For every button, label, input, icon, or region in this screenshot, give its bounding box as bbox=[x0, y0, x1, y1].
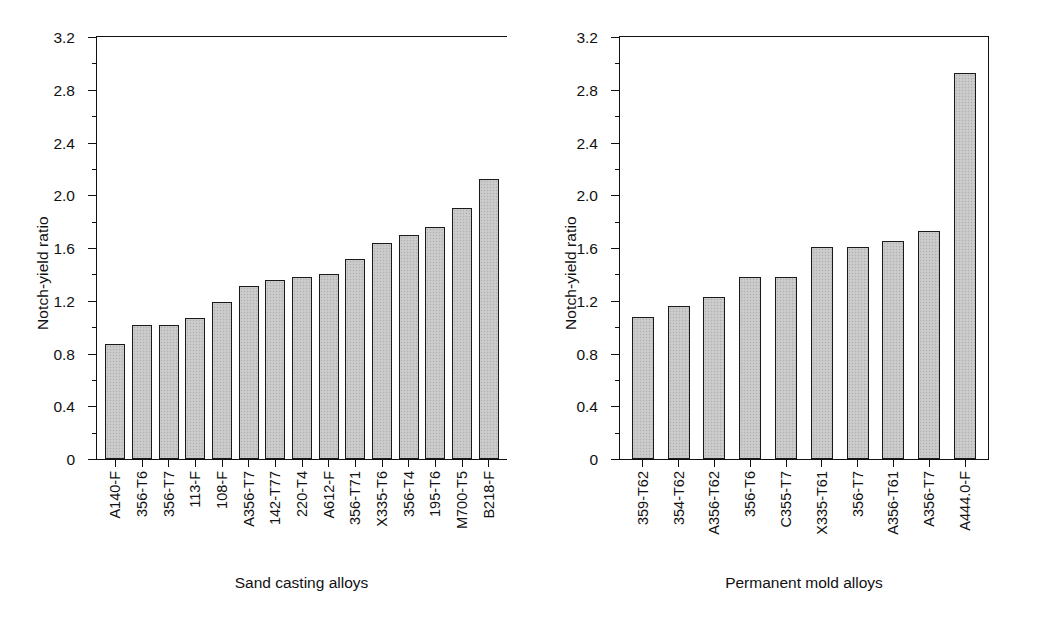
bar-item[interactable]: A140-F bbox=[102, 37, 129, 459]
bar-item[interactable]: 142-T77 bbox=[262, 37, 289, 459]
plot-area-left: A140-F356-T6356-T7113-F108-FA356-T7142-T… bbox=[96, 36, 507, 460]
y-axis-tick: 1.2 bbox=[88, 301, 97, 302]
bar[interactable] bbox=[739, 277, 761, 459]
y-axis-tick: 0 bbox=[611, 459, 620, 460]
y-axis-tick-label: 2.8 bbox=[576, 82, 598, 100]
figure: Notch-yield ratio A140-F356-T6356-T7113-… bbox=[0, 0, 1062, 623]
x-axis-category-label: 113-F bbox=[187, 471, 203, 508]
y-axis-tick-label: 1.6 bbox=[53, 240, 75, 258]
x-axis-title-left: Sand casting alloys bbox=[96, 574, 507, 592]
bar[interactable] bbox=[882, 241, 904, 459]
bar-item[interactable]: A356-T62 bbox=[697, 37, 733, 459]
bar-item[interactable]: 359-T62 bbox=[625, 37, 661, 459]
x-axis-category-label: 356-T7 bbox=[161, 471, 177, 517]
bar-item[interactable]: A356-T7 bbox=[911, 37, 947, 459]
bar-item[interactable]: X335-T6 bbox=[369, 37, 396, 459]
bar-item[interactable]: A444.0-F bbox=[947, 37, 983, 459]
x-axis-tick bbox=[168, 459, 169, 467]
x-axis-category-label: A356-T61 bbox=[885, 471, 901, 535]
x-axis-category-label: 359-T62 bbox=[635, 471, 651, 525]
x-axis-category-label: 356-T6 bbox=[742, 471, 758, 517]
y-axis-tick: 2.8 bbox=[611, 90, 620, 91]
y-axis-tick-label: 2.8 bbox=[53, 82, 75, 100]
x-axis-tick bbox=[408, 459, 409, 467]
x-axis-category-label: A356-T7 bbox=[921, 471, 937, 527]
x-axis-tick bbox=[195, 459, 196, 467]
bar-item[interactable]: 356-T7 bbox=[840, 37, 876, 459]
bar[interactable] bbox=[159, 325, 179, 460]
bar[interactable] bbox=[954, 73, 976, 459]
y-axis-tick-label: 2.0 bbox=[53, 187, 75, 205]
bar[interactable] bbox=[372, 243, 392, 459]
y-axis-tick: 1.6 bbox=[88, 248, 97, 249]
x-axis-tick bbox=[355, 459, 356, 467]
bar-item[interactable]: A356-T7 bbox=[235, 37, 262, 459]
bar[interactable] bbox=[668, 306, 690, 459]
y-axis-tick-label: 3.2 bbox=[53, 29, 75, 47]
x-axis-tick bbox=[435, 459, 436, 467]
x-axis-category-label: 220-T4 bbox=[294, 471, 310, 517]
bar[interactable] bbox=[105, 344, 125, 459]
bar-item[interactable]: A612-F bbox=[315, 37, 342, 459]
x-axis-tick bbox=[821, 459, 822, 467]
bar[interactable] bbox=[425, 227, 445, 459]
bar-item[interactable]: 356-T71 bbox=[342, 37, 369, 459]
bar[interactable] bbox=[452, 208, 472, 459]
bar[interactable] bbox=[479, 179, 499, 459]
y-axis-tick: 3.2 bbox=[611, 37, 620, 38]
bar-item[interactable]: 195-T6 bbox=[422, 37, 449, 459]
bar-item[interactable]: 108-F bbox=[209, 37, 236, 459]
bar[interactable] bbox=[292, 277, 312, 459]
bar-item[interactable]: 356-T4 bbox=[395, 37, 422, 459]
x-axis-category-label: A140-F bbox=[107, 471, 123, 519]
bar-item[interactable]: 356-T7 bbox=[155, 37, 182, 459]
bar-item[interactable]: A356-T61 bbox=[876, 37, 912, 459]
bar[interactable] bbox=[775, 277, 797, 459]
bar-item[interactable]: X335-T61 bbox=[804, 37, 840, 459]
bar[interactable] bbox=[399, 235, 419, 459]
bar[interactable] bbox=[265, 280, 285, 459]
x-axis-category-label: 356-T7 bbox=[850, 471, 866, 517]
bar[interactable] bbox=[345, 259, 365, 459]
bar[interactable] bbox=[132, 325, 152, 460]
x-axis-tick bbox=[142, 459, 143, 467]
chart-panel-sand-casting: Notch-yield ratio A140-F356-T6356-T7113-… bbox=[0, 0, 540, 623]
bar-item[interactable]: 220-T4 bbox=[289, 37, 316, 459]
y-axis-tick: 0 bbox=[88, 459, 97, 460]
x-axis-tick bbox=[750, 459, 751, 467]
x-axis-tick bbox=[382, 459, 383, 467]
bar-item[interactable]: B218-F bbox=[475, 37, 502, 459]
y-axis-minor-tick bbox=[615, 433, 621, 434]
bar[interactable] bbox=[319, 274, 339, 459]
y-axis-tick: 2.0 bbox=[611, 195, 620, 196]
y-axis-minor-tick bbox=[92, 327, 98, 328]
x-axis-category-label: B218-F bbox=[481, 471, 497, 519]
y-axis-tick: 1.2 bbox=[611, 301, 620, 302]
bar-item[interactable]: 354-T62 bbox=[661, 37, 697, 459]
y-axis-tick-label: 3.2 bbox=[576, 29, 598, 47]
x-axis-tick bbox=[965, 459, 966, 467]
y-axis-tick: 2.8 bbox=[88, 90, 97, 91]
x-axis-category-label: 354-T62 bbox=[671, 471, 687, 525]
y-axis-minor-tick bbox=[615, 274, 621, 275]
x-axis-category-label: X335-T6 bbox=[374, 471, 390, 527]
bar[interactable] bbox=[239, 286, 259, 459]
bar-item[interactable]: C355-T7 bbox=[768, 37, 804, 459]
y-axis-minor-tick bbox=[92, 433, 98, 434]
bar[interactable] bbox=[703, 297, 725, 459]
bar-group-right: 359-T62354-T62A356-T62356-T6C355-T7X335-… bbox=[620, 37, 988, 459]
bar[interactable] bbox=[185, 318, 205, 459]
bar[interactable] bbox=[918, 231, 940, 459]
bar[interactable] bbox=[632, 317, 654, 459]
y-axis-tick-label: 0.4 bbox=[53, 398, 75, 416]
x-axis-category-label: A444.0-F bbox=[957, 471, 973, 531]
x-axis-category-label: 356-T4 bbox=[401, 471, 417, 517]
bar[interactable] bbox=[212, 302, 232, 459]
bar[interactable] bbox=[847, 247, 869, 459]
bar-item[interactable]: 113-F bbox=[182, 37, 209, 459]
bar-item[interactable]: 356-T6 bbox=[732, 37, 768, 459]
y-axis-minor-tick bbox=[92, 274, 98, 275]
bar-item[interactable]: 356-T6 bbox=[129, 37, 156, 459]
bar-item[interactable]: M700-T5 bbox=[449, 37, 476, 459]
bar[interactable] bbox=[811, 247, 833, 459]
